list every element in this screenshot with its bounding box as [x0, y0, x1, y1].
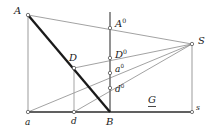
label-point-d: d — [71, 117, 77, 126]
point-marker-s — [190, 110, 193, 113]
label-point-a: a — [25, 118, 30, 127]
point-marker-D — [72, 66, 75, 69]
label-segment-G: G — [148, 95, 156, 107]
point-marker-a — [26, 110, 29, 113]
segment-ray-d-to-S — [74, 44, 192, 112]
label-point-A: A — [14, 6, 21, 16]
label-point-a-zero: a0 — [115, 64, 124, 74]
label-point-D: D — [69, 53, 77, 63]
point-marker-A0 — [108, 26, 111, 29]
point-marker-a0 — [108, 71, 111, 74]
label-point-s: s — [196, 104, 200, 112]
label-point-B: B — [106, 117, 113, 127]
label-point-d-zero: d0 — [115, 84, 124, 94]
point-marker-d — [72, 110, 75, 113]
geometry-canvas — [0, 0, 211, 132]
point-marker-D0 — [108, 56, 111, 59]
geometric-figure: A S D B a d s A0 D0 a0 d0 G — [0, 0, 211, 132]
label-point-D-zero: D0 — [115, 49, 127, 60]
segment-ray-D-to-S — [74, 44, 192, 68]
point-marker-d0 — [108, 86, 111, 89]
point-marker-S — [190, 42, 193, 45]
label-point-S: S — [198, 36, 205, 46]
label-point-A-zero: A0 — [115, 18, 126, 29]
point-marker-A — [26, 13, 29, 16]
